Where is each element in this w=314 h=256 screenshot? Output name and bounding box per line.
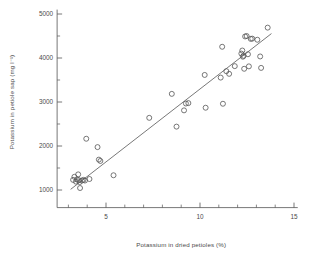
data-point-marker bbox=[265, 25, 270, 30]
data-point-marker bbox=[245, 52, 250, 57]
x-tick-label: 10 bbox=[196, 213, 204, 220]
data-point-marker bbox=[242, 66, 247, 71]
plot-canvas: 1000200030004000500051015Potassium in dr… bbox=[0, 0, 314, 256]
data-point-marker bbox=[174, 124, 179, 129]
data-point-marker bbox=[87, 177, 92, 182]
data-point-marker bbox=[218, 75, 223, 80]
data-point-marker bbox=[259, 65, 264, 70]
data-point-marker bbox=[182, 108, 187, 113]
y-axis-title: Potassium in petiole sap (mg l⁻¹) bbox=[8, 55, 15, 150]
data-point-marker bbox=[220, 44, 225, 49]
data-point-marker bbox=[78, 186, 83, 191]
data-point-marker bbox=[258, 54, 263, 59]
data-point-marker bbox=[76, 172, 81, 177]
data-point-marker bbox=[246, 64, 251, 69]
data-point-marker bbox=[240, 48, 245, 53]
x-tick-label: 15 bbox=[290, 213, 298, 220]
data-point-marker bbox=[147, 115, 152, 120]
y-tick-label: 5000 bbox=[39, 10, 54, 17]
data-point-marker bbox=[202, 72, 207, 77]
data-point-marker bbox=[255, 37, 260, 42]
y-tick-label: 4000 bbox=[39, 54, 54, 61]
data-point-marker bbox=[98, 158, 103, 163]
data-point-marker bbox=[169, 91, 174, 96]
data-point-marker bbox=[84, 136, 89, 141]
data-point-marker bbox=[220, 101, 225, 106]
y-tick-label: 3000 bbox=[39, 98, 54, 105]
data-point-marker bbox=[96, 157, 101, 162]
data-point-marker bbox=[203, 105, 208, 110]
y-tick-label: 2000 bbox=[39, 142, 54, 149]
x-tick-label: 5 bbox=[104, 213, 108, 220]
x-axis-title: Potassium in dried petioles (%) bbox=[136, 241, 226, 248]
scatter-plot-figure: 1000200030004000500051015Potassium in dr… bbox=[0, 0, 314, 256]
data-point-marker bbox=[95, 145, 100, 150]
y-tick-label: 1000 bbox=[39, 186, 54, 193]
data-point-marker bbox=[232, 64, 237, 69]
data-point-marker bbox=[111, 173, 116, 178]
